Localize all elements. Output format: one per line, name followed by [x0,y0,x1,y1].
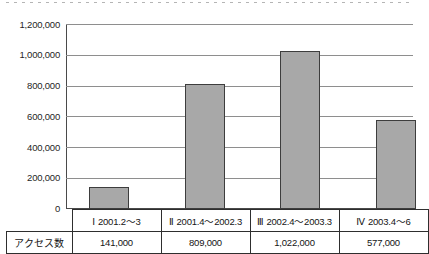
bar-period-4 [376,120,416,209]
y-axis-tick-label-400000: 400,000 [0,142,60,153]
period-1-roman: Ⅰ [92,216,95,227]
table-cell-value-3: 1,022,000 [250,232,339,254]
period-2-roman: Ⅱ [169,216,173,227]
gridline-600000 [66,116,413,117]
gridline-400000 [66,147,413,148]
period-3-range: 2002.4～2003.3 [266,216,332,227]
plot-area [66,24,413,209]
table-cell-period-1: Ⅰ2001.2～3 [72,210,161,232]
y-axis-tick-label-1000000: 1,000,000 [0,49,60,60]
gridline-200000 [66,178,413,179]
y-axis-tick-label-600000: 600,000 [0,111,60,122]
table-cell-period-3: Ⅲ2002.4～2003.3 [250,210,339,232]
gridline-1200000 [66,24,413,25]
bar-period-3 [280,51,320,209]
y-axis-tick-label-800000: 800,000 [0,80,60,91]
access-count-table: Ⅰ2001.2～3 Ⅱ2001.4～2002.3 Ⅲ2002.4～2003.3 … [6,209,429,254]
table-row-periods: Ⅰ2001.2～3 Ⅱ2001.4～2002.3 Ⅲ2002.4～2003.3 … [7,210,429,232]
table-cell-value-1: 141,000 [72,232,161,254]
gridline-800000 [66,86,413,87]
table-corner-cell [7,210,73,232]
table-row-values: アクセス数 141,000 809,000 1,022,000 577,000 [7,232,429,254]
y-axis-tick-label-1200000: 1,200,000 [0,19,60,30]
table-row-header-access-count: アクセス数 [7,232,73,254]
period-2-range: 2001.4～2002.3 [176,216,242,227]
gridline-1000000 [66,55,413,56]
bar-period-1 [89,187,129,209]
period-4-range: 2003.4～6 [368,216,411,227]
bar-period-2 [185,84,225,209]
table-cell-value-2: 809,000 [161,232,250,254]
table-cell-period-4: Ⅳ2003.4～6 [339,210,428,232]
table-cell-period-2: Ⅱ2001.4～2002.3 [161,210,250,232]
table-cell-value-4: 577,000 [339,232,428,254]
period-1-range: 2001.2～3 [98,216,141,227]
period-3-roman: Ⅲ [257,216,263,227]
y-axis-tick-label-200000: 200,000 [0,172,60,183]
period-4-roman: Ⅳ [356,216,365,227]
scan-artifact-line [6,2,410,3]
